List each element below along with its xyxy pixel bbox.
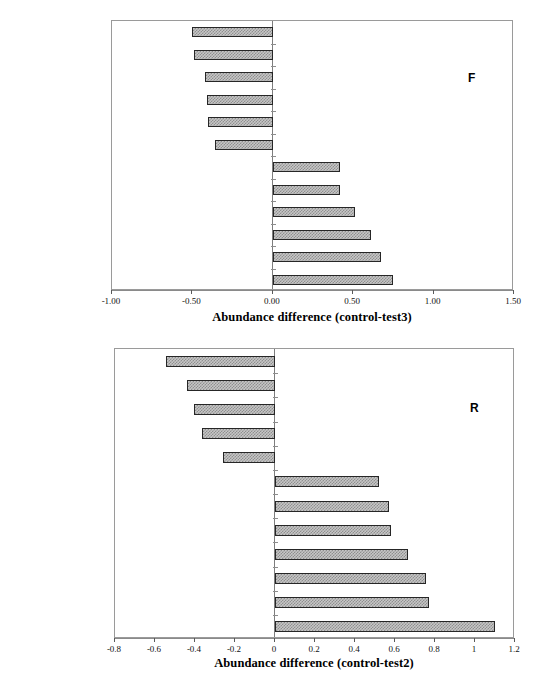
category-tick [273, 518, 278, 519]
x-tick-label: 1.00 [425, 296, 441, 306]
x-tick-label: 0.50 [344, 296, 360, 306]
x-axis-line-f [111, 290, 513, 291]
bar [275, 621, 495, 632]
bar [205, 72, 273, 82]
category-tick [271, 246, 276, 247]
panel-letter-r: R [470, 401, 479, 415]
x-tick-label: 0.8 [428, 644, 439, 654]
x-tick [434, 638, 435, 642]
bar [275, 525, 391, 536]
zero-reference-line [272, 21, 273, 289]
zero-reference-line [274, 349, 275, 637]
category-tick [271, 134, 276, 135]
category-tick [271, 89, 276, 90]
bar [207, 95, 273, 105]
bar [273, 252, 381, 262]
category-tick [273, 373, 278, 374]
x-tick [194, 638, 195, 642]
category-tick [271, 66, 276, 67]
x-axis-title-f: Abundance difference (control-test3) [212, 310, 412, 325]
plot-area-r [114, 348, 514, 638]
x-tick [474, 638, 475, 642]
category-tick [271, 201, 276, 202]
bar [194, 50, 273, 60]
x-tick [154, 638, 155, 642]
category-tick [271, 156, 276, 157]
x-tick-label: -0.8 [107, 644, 121, 654]
x-tick [272, 290, 273, 294]
bar [273, 230, 371, 240]
bar [192, 27, 272, 37]
plot-area-f [111, 20, 513, 290]
x-tick [114, 638, 115, 642]
x-tick [191, 290, 192, 294]
bar [275, 501, 389, 512]
category-tick [271, 44, 276, 45]
bar [273, 162, 341, 172]
x-tick [234, 638, 235, 642]
bar [194, 404, 275, 415]
bar [273, 275, 394, 285]
category-tick [271, 179, 276, 180]
x-tick [352, 290, 353, 294]
x-tick-label: 0.4 [348, 644, 359, 654]
x-tick [111, 290, 112, 294]
bar [166, 356, 275, 367]
x-tick [513, 290, 514, 294]
category-tick [273, 422, 278, 423]
category-tick [271, 224, 276, 225]
bar [273, 185, 341, 195]
x-tick [274, 638, 275, 642]
category-tick [271, 269, 276, 270]
x-tick [433, 290, 434, 294]
x-tick-label: -0.50 [182, 296, 201, 306]
category-tick [273, 494, 278, 495]
bar [275, 597, 429, 608]
bar [215, 140, 273, 150]
chart-panel-r: TabanidaeEmpididaeHydrophilidaeTanytarsi… [0, 340, 536, 688]
x-tick-label: 0 [272, 644, 277, 654]
x-tick [314, 638, 315, 642]
category-tick [273, 397, 278, 398]
x-tick-label: 0.2 [308, 644, 319, 654]
category-tick [273, 615, 278, 616]
x-tick-label: 1.2 [508, 644, 519, 654]
category-tick [273, 591, 278, 592]
category-tick [273, 470, 278, 471]
x-tick-label: 1 [472, 644, 477, 654]
bar [223, 452, 275, 463]
x-tick-label: -0.2 [227, 644, 241, 654]
figure-root: SphaeriidaeGlossiphoniidaeLimnephilidaeT… [0, 0, 536, 688]
x-tick [354, 638, 355, 642]
x-tick-label: 0.6 [388, 644, 399, 654]
bar [273, 207, 355, 217]
bar [275, 549, 408, 560]
chart-panel-f: SphaeriidaeGlossiphoniidaeLimnephilidaeT… [0, 0, 536, 330]
category-tick [273, 567, 278, 568]
bar [275, 476, 379, 487]
x-tick-label: -0.4 [187, 644, 201, 654]
bar [275, 573, 426, 584]
category-tick [273, 542, 278, 543]
x-tick-label: 1.50 [505, 296, 521, 306]
x-tick [514, 638, 515, 642]
x-axis-title-r: Abundance difference (control-test2) [214, 656, 414, 671]
x-tick-label: 0.00 [264, 296, 280, 306]
x-tick-label: -1.00 [102, 296, 121, 306]
x-tick-label: -0.6 [147, 644, 161, 654]
bar [202, 428, 275, 439]
x-tick [394, 638, 395, 642]
category-tick [273, 446, 278, 447]
bar [208, 117, 272, 127]
panel-letter-f: F [468, 71, 475, 85]
bar [187, 380, 275, 391]
category-tick [271, 111, 276, 112]
